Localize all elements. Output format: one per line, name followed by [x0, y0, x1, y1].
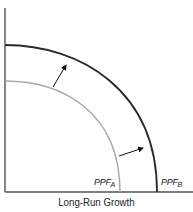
- ppf-a-curve: [5, 81, 120, 192]
- ppf-b-curve: [5, 45, 157, 192]
- shift-arrow-lower: [119, 148, 143, 156]
- ppf-diagram: PPFA PPFB Long-Run Growth: [0, 0, 193, 212]
- diagram-title: Long-Run Growth: [12, 196, 182, 208]
- ppf-b-label: PPFB: [161, 177, 182, 188]
- shift-arrow-upper: [53, 65, 66, 87]
- ppf-a-label: PPFA: [94, 177, 115, 188]
